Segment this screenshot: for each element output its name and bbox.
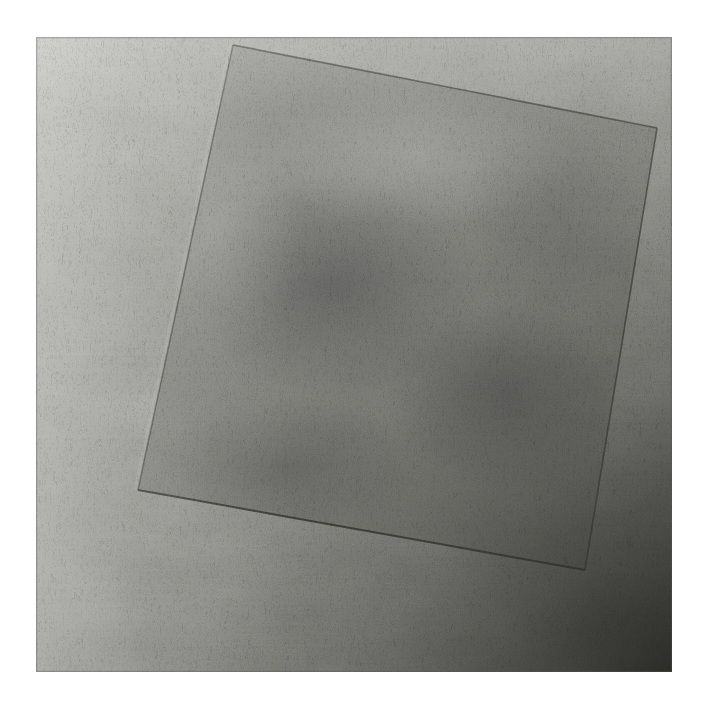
artwork-root: Suprematist Composition: White on White … [0, 0, 710, 709]
painting-image-plate [36, 37, 672, 672]
painting-vector-canvas [36, 37, 672, 672]
photographic-grain-texture [36, 37, 672, 672]
